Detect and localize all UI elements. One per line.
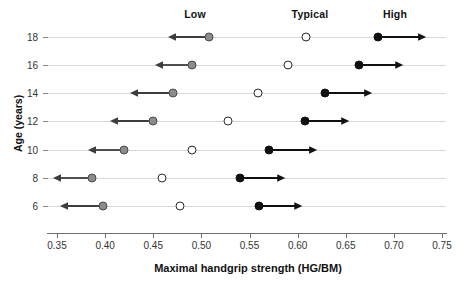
x-tick-mark [346,234,347,238]
trend-arrow-low [53,172,92,184]
data-point-low-age-12 [149,117,158,126]
x-tick-label: 0.45 [144,240,163,251]
x-tick-mark [442,234,443,238]
trend-arrow-low [88,144,125,156]
row-guide-line [48,206,446,207]
data-point-typical-age-14 [254,89,263,98]
row-guide-line [48,93,446,94]
data-point-typical-age-6 [176,202,185,211]
y-tick-label-8: 8 [18,173,38,184]
data-point-typical-age-18 [302,33,311,42]
data-point-high-age-18 [373,33,382,42]
data-point-high-age-10 [264,146,273,155]
x-tick-label: 0.65 [336,240,355,251]
trend-arrow-low [155,59,192,71]
x-tick-mark [250,234,251,238]
x-tick-label: 0.35 [47,240,66,251]
data-point-low-age-8 [87,174,96,183]
data-point-high-age-6 [255,202,264,211]
y-tick-label-16: 16 [18,60,38,71]
x-tick-label: 0.50 [192,240,211,251]
data-point-high-age-12 [301,117,310,126]
data-point-high-age-8 [235,174,244,183]
trend-arrow-high [378,31,426,43]
y-tick-label-12: 12 [18,116,38,127]
trend-arrow-high [305,115,349,127]
x-tick-label: 0.60 [288,240,307,251]
x-tick-mark [201,234,202,238]
trend-arrow-low [168,31,209,43]
data-point-low-age-18 [205,33,214,42]
data-point-high-age-14 [320,89,329,98]
data-point-typical-age-16 [284,61,293,70]
x-axis-line [47,233,447,234]
x-tick-mark [57,234,58,238]
x-tick-label: 0.70 [384,240,403,251]
trend-arrow-low [110,115,153,127]
row-guide-line [48,121,446,122]
chart-container: Low Typical High Age (years) 18 16 14 12… [0,0,474,286]
trend-arrow-high [325,87,372,99]
x-tick-label: 0.55 [240,240,259,251]
data-point-typical-age-12 [224,117,233,126]
trend-arrow-high [259,200,302,212]
column-header-low: Low [184,8,206,20]
data-point-low-age-16 [187,61,196,70]
column-header-high: High [383,8,407,20]
x-tick-label: 0.40 [95,240,114,251]
data-point-low-age-6 [99,202,108,211]
y-tick-label-10: 10 [18,145,38,156]
data-point-typical-age-10 [187,146,196,155]
data-point-low-age-14 [168,89,177,98]
data-point-low-age-10 [120,146,129,155]
x-tick-label: 0.75 [432,240,451,251]
column-header-typical: Typical [292,8,329,20]
x-tick-mark [105,234,106,238]
data-point-high-age-16 [355,61,364,70]
trend-arrow-high [359,59,403,71]
x-tick-mark [298,234,299,238]
data-point-typical-age-8 [157,174,166,183]
y-tick-label-14: 14 [18,88,38,99]
trend-arrow-high [240,172,285,184]
trend-arrow-high [269,144,317,156]
y-tick-label-6: 6 [18,201,38,212]
trend-arrow-low [130,87,172,99]
y-tick-label-18: 18 [18,32,38,43]
x-axis-title: Maximal handgrip strength (HG/BM) [154,262,342,274]
trend-arrow-low [60,200,103,212]
x-tick-mark [153,234,154,238]
x-tick-mark [394,234,395,238]
